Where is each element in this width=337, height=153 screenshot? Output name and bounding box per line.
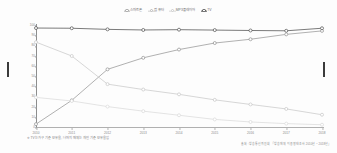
data-point-pc: [178, 93, 181, 96]
data-point-smartphone: [285, 33, 288, 36]
scan-artifact-left: [7, 62, 9, 77]
x-tick-label: 2018: [318, 132, 325, 135]
data-point-mp3: [213, 118, 216, 121]
chart-container: 스마트폰컴퓨터MP3플레이어TV 1009080706050403020100 …: [0, 0, 337, 153]
data-point-pc: [142, 88, 145, 91]
data-point-mp3: [142, 110, 145, 113]
chart-footnote: ※ TV는 가구 기준 보유율, 나머지 매체는 개인 기준 보유율임: [27, 136, 109, 140]
x-tick-label: 2014: [175, 132, 182, 135]
data-point-pc: [249, 103, 252, 106]
series-line-pc: [36, 42, 322, 115]
x-tick-label: 2012: [104, 132, 111, 135]
legend-marker-smartphone-icon: [125, 9, 128, 12]
data-point-smartphone: [178, 48, 181, 51]
legend-label: MP3플레이어: [176, 9, 196, 12]
legend-item-smartphone: 스마트폰: [125, 9, 142, 12]
series-mp3: [35, 96, 324, 126]
data-point-tv: [285, 29, 288, 32]
data-point-pc: [213, 98, 216, 101]
x-tick-label: 2013: [140, 132, 147, 135]
data-point-pc: [70, 54, 73, 57]
x-tick-label: 2010: [32, 132, 39, 135]
data-point-smartphone: [35, 123, 38, 126]
data-point-pc: [35, 41, 38, 44]
data-point-mp3: [178, 114, 181, 117]
series-smartphone: [35, 29, 324, 125]
x-tick-label: 2016: [247, 132, 254, 135]
x-tick-label: 2015: [211, 132, 218, 135]
data-point-smartphone: [142, 56, 145, 59]
chart-source: 출처 : 방송통신위원회 「방송매체 이용행태조사 2010년 ~ 2018년」: [241, 143, 331, 147]
plot-area: 1009080706050403020100 20102011201220132…: [24, 24, 324, 128]
series-pc: [35, 41, 324, 117]
chart-legend: 스마트폰컴퓨터MP3플레이어TV: [0, 9, 337, 12]
data-point-mp3: [321, 123, 324, 126]
series-tv: [35, 27, 324, 33]
data-point-mp3: [35, 96, 38, 99]
data-point-tv: [70, 27, 73, 30]
legend-label: 스마트폰: [130, 9, 142, 12]
data-point-pc: [285, 107, 288, 110]
data-point-tv: [142, 28, 145, 31]
data-point-pc: [321, 113, 324, 116]
data-point-tv: [213, 29, 216, 32]
data-point-smartphone: [249, 38, 252, 41]
data-point-mp3: [285, 122, 288, 125]
x-tick-label: 2017: [283, 132, 290, 135]
legend-label: TV: [207, 9, 212, 12]
data-point-mp3: [106, 105, 109, 108]
data-point-tv: [35, 27, 38, 30]
data-point-mp3: [249, 120, 252, 123]
legend-marker-pc-icon: [150, 9, 153, 12]
data-point-tv: [106, 28, 109, 31]
legend-label: 컴퓨터: [154, 9, 163, 12]
series-line-mp3: [36, 97, 322, 124]
legend-item-pc: 컴퓨터: [150, 9, 164, 12]
data-point-smartphone: [213, 42, 216, 45]
legend-item-tv: TV: [202, 9, 211, 12]
data-point-tv: [178, 28, 181, 31]
legend-marker-mp3-icon: [171, 9, 174, 12]
data-point-tv: [249, 29, 252, 32]
data-point-tv: [321, 27, 324, 30]
legend-item-mp3: MP3플레이어: [171, 9, 196, 12]
series-line-smartphone: [36, 31, 322, 124]
series-lines: [24, 24, 324, 128]
x-tick-label: 2011: [68, 132, 75, 135]
legend-marker-tv-icon: [202, 9, 205, 12]
data-point-smartphone: [106, 68, 109, 71]
data-point-mp3: [70, 99, 73, 102]
data-point-pc: [106, 83, 109, 86]
